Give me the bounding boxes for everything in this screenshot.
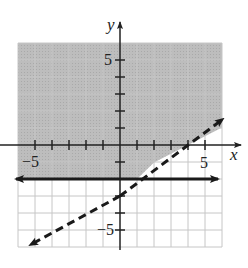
y-tick-label-5: 5: [104, 51, 112, 68]
x-axis-label: x: [229, 145, 238, 164]
y-axis-label: y: [105, 15, 115, 34]
inequality-graph: y x 5 −5 5 −5: [0, 0, 248, 268]
x-tick-label-5: 5: [200, 154, 208, 171]
y-tick-label-neg5: −5: [97, 221, 114, 238]
x-tick-label-neg5: −5: [22, 153, 39, 170]
